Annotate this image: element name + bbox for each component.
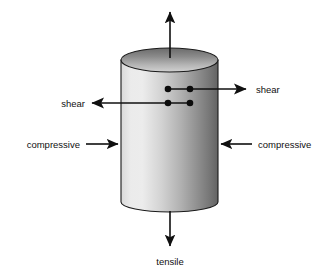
shear-left-label: shear — [61, 98, 85, 109]
stress-cylinder-diagram: tensile shear shear compressive compress — [0, 0, 333, 273]
compressive-right-label: compressive — [258, 139, 311, 150]
tensile-label: tensile — [156, 256, 183, 267]
shear-dot-upper-left — [165, 86, 172, 93]
shear-dot-upper-right — [187, 86, 194, 93]
shear-dot-lower-right — [187, 100, 194, 107]
compressive-left-annotation: compressive — [27, 139, 118, 150]
compressive-right-annotation: compressive — [221, 139, 311, 150]
figure-root: tensile shear shear compressive compress — [0, 0, 333, 273]
shear-right-label: shear — [256, 84, 280, 95]
compressive-left-label: compressive — [27, 139, 80, 150]
cylinder-specimen — [121, 48, 218, 212]
tensile-down-annotation: tensile — [156, 211, 183, 267]
shear-dot-lower-left — [165, 100, 172, 107]
cylinder-body — [121, 60, 218, 212]
